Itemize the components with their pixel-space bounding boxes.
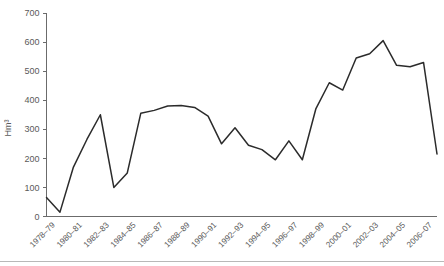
y-axis: 0100200300400500600700Hm³	[3, 8, 47, 222]
x-axis-tick-label: 1986–87	[136, 220, 165, 249]
data-series-line	[47, 41, 438, 213]
x-axis: 1978–791980–811982–831984–851986–871988–…	[28, 217, 437, 250]
x-axis-tick-label: 1984–85	[109, 220, 138, 249]
x-axis-tick-label: 2004–05	[378, 220, 407, 249]
x-axis-tick-label: 2006–07	[405, 220, 434, 249]
y-axis-tick-label: 600	[24, 37, 39, 47]
x-axis-tick-label: 1992–93	[217, 220, 246, 249]
y-axis-tick-label: 0	[34, 212, 39, 222]
chart-canvas: 0100200300400500600700Hm³ 1978–791980–81…	[0, 0, 444, 266]
y-axis-tick-label: 700	[24, 8, 39, 18]
y-axis-tick-label: 200	[24, 154, 39, 164]
y-axis-tick-label: 500	[24, 66, 39, 76]
y-axis-tick-label: 300	[24, 124, 39, 134]
x-axis-tick-label: 1982–83	[82, 220, 111, 249]
x-axis-tick-label: 1996–97	[270, 220, 299, 249]
line-chart-figure: 0100200300400500600700Hm³ 1978–791980–81…	[0, 0, 444, 266]
x-axis-tick-label: 1998–99	[297, 220, 326, 249]
x-axis-tick-label: 1990–91	[190, 220, 219, 249]
plot-area	[47, 41, 438, 213]
y-axis-title: Hm³	[3, 120, 13, 137]
x-axis-tick-label: 2000–01	[324, 220, 353, 249]
x-axis-tick-label: 1988–89	[163, 220, 192, 249]
x-axis-tick-label: 1994–95	[243, 220, 272, 249]
x-axis-tick-label: 1980–81	[55, 220, 84, 249]
y-axis-tick-label: 100	[24, 183, 39, 193]
x-axis-tick-label: 2002–03	[351, 220, 380, 249]
x-axis-tick-label: 1978–79	[28, 220, 57, 249]
y-axis-tick-label: 400	[24, 95, 39, 105]
